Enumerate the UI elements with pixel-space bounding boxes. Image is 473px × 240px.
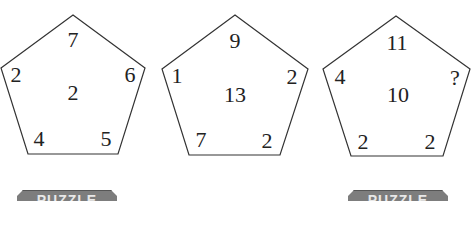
- pentagon-2-top: 9: [230, 30, 241, 52]
- pentagon-3-top: 11: [386, 32, 407, 54]
- pentagon-1-right: 6: [125, 64, 136, 86]
- puzzle-badge-right-label: PUZZLE: [348, 191, 448, 201]
- pentagon-3-bottom-left: 2: [358, 131, 369, 153]
- pentagon-1-left: 2: [11, 64, 22, 86]
- pentagon-1-top: 7: [68, 29, 79, 51]
- pentagon-2-center: 13: [224, 84, 246, 106]
- pentagon-2-left: 1: [172, 65, 183, 87]
- pentagon-3-right-unknown: ?: [450, 67, 460, 89]
- pentagon-2-bottom-right: 2: [262, 130, 273, 152]
- pentagon-3-left: 4: [335, 66, 346, 88]
- pentagon-3-bottom-right: 2: [425, 131, 436, 153]
- pentagon-1-bottom-left: 4: [34, 128, 45, 150]
- puzzle-badge-left: PUZZLE: [17, 190, 117, 201]
- pentagon-3-center: 10: [387, 84, 409, 106]
- puzzle-badge-right: PUZZLE: [348, 190, 448, 201]
- pentagon-2-right: 2: [287, 66, 298, 88]
- pentagon-1-center: 2: [68, 82, 79, 104]
- puzzle-badge-left-label: PUZZLE: [17, 191, 117, 201]
- pentagon-2-bottom-left: 7: [196, 129, 207, 151]
- pentagon-1-bottom-right: 5: [101, 128, 112, 150]
